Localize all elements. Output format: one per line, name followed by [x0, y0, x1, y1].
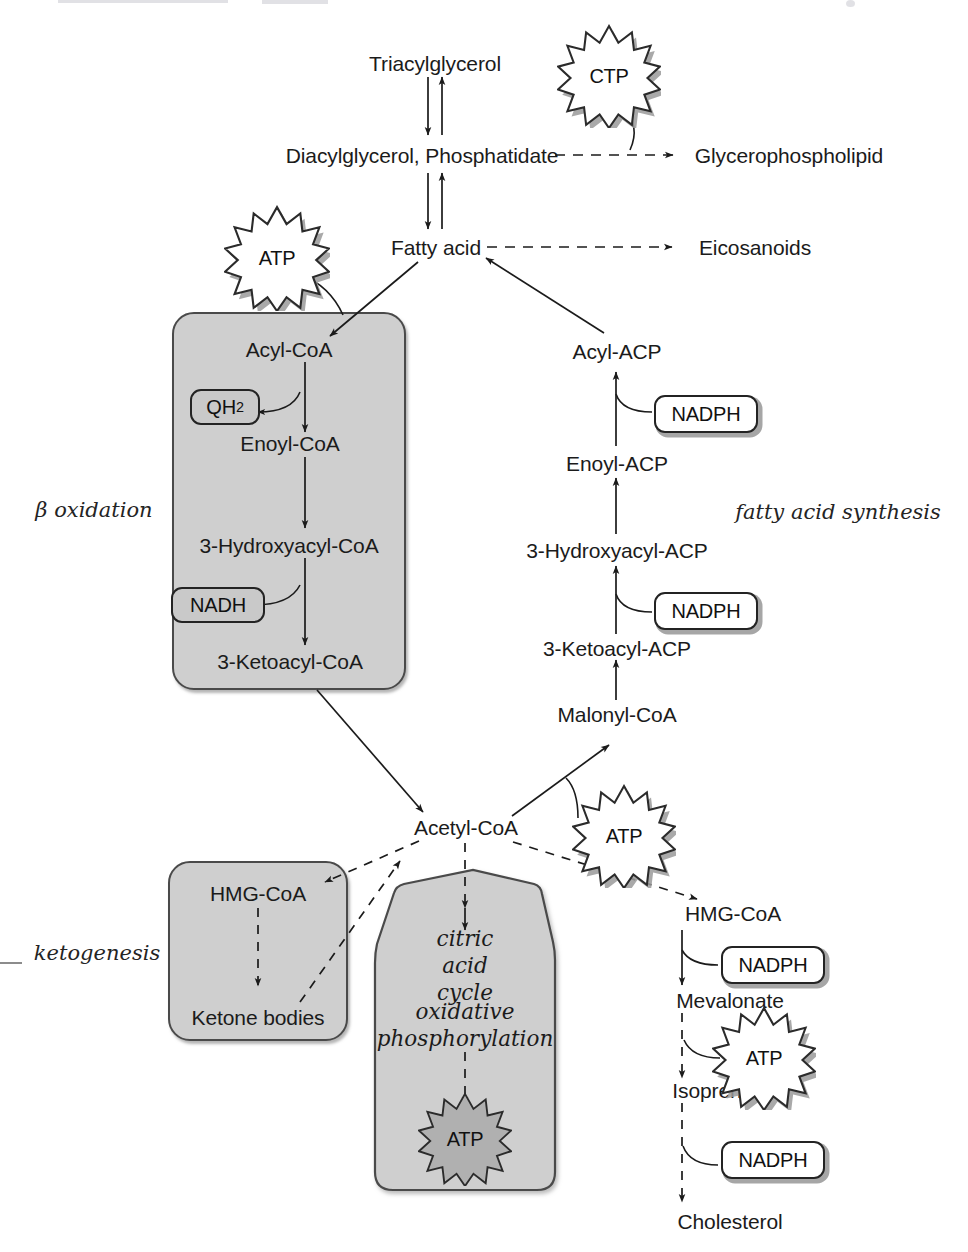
node-glycerophospholipid: Glycerophospholipid — [695, 143, 883, 168]
node-3-ketoacyl-coa: 3-Ketoacyl-CoA — [217, 649, 363, 674]
node-hmg-coa-ketogenesis: HMG-CoA — [210, 881, 306, 906]
caption-citric-line-1: citric — [437, 925, 494, 952]
caption-fatty-acid-synthesis: fatty acid synthesis — [735, 500, 941, 524]
atp-isoprenoid-starburst-icon — [712, 1006, 816, 1110]
atp-mitochondrion-starburst-icon — [418, 1092, 512, 1186]
caption-oxphos-line-1: oxidative — [377, 998, 554, 1025]
badge-qh2-label: QH — [206, 397, 236, 417]
badge-nadph-cholesterol-label: NADPH — [738, 1150, 807, 1170]
node-triacylglycerol: Triacylglycerol — [369, 51, 501, 76]
burst-atp-mitochondrion: ATP — [418, 1092, 512, 1186]
badge-nadph-hydroxyacyl-acp-label: NADPH — [671, 601, 740, 621]
ctp-starburst-icon — [557, 24, 661, 128]
badge-nadph-mevalonate: NADPH — [721, 946, 825, 984]
arrow-layer: Glycerophospholipid (dashed) ===== --> E… — [0, 0, 968, 1252]
badge-nadph-acyl-acp: NADPH — [654, 395, 758, 433]
burst-atp-activation: ATP — [224, 205, 330, 311]
badge-nadph-hydroxyacyl-acp: NADPH — [654, 592, 758, 630]
node-malonyl-coa: Malonyl-CoA — [557, 702, 676, 727]
badge-nadh-label: NADH — [190, 595, 246, 615]
burst-atp-malonyl: ATP — [572, 784, 676, 888]
node-cholesterol: Cholesterol — [677, 1209, 782, 1234]
caption-citric-line-2: acid — [437, 952, 494, 979]
badge-nadh: NADH — [171, 587, 265, 623]
badge-qh2-subscript: 2 — [236, 400, 244, 414]
node-eicosanoids: Eicosanoids — [699, 235, 811, 260]
atp-activation-starburst-icon — [224, 205, 330, 311]
node-acetyl-coa: Acetyl-CoA — [414, 815, 518, 840]
node-3-hydroxyacyl-acp: 3-Hydroxyacyl-ACP — [526, 538, 708, 563]
node-fatty-acid: Fatty acid — [391, 235, 481, 260]
badge-nadph-cholesterol: NADPH — [721, 1141, 825, 1179]
burst-atp-isoprenoid: ATP — [712, 1006, 816, 1110]
node-acyl-acp: Acyl-ACP — [572, 339, 661, 364]
node-diacylglycerol-phosphatidate: Diacylglycerol, Phosphatidate — [286, 143, 559, 168]
caption-oxphos-line-2: phosphorylation — [377, 1025, 554, 1052]
caption-citric-acid-cycle: citric acid cycle — [437, 925, 494, 1006]
badge-nadph-mevalonate-label: NADPH — [738, 955, 807, 975]
atp-malonyl-starburst-icon — [572, 784, 676, 888]
node-enoyl-coa: Enoyl-CoA — [240, 431, 339, 456]
badge-nadph-acyl-acp-label: NADPH — [671, 404, 740, 424]
badge-qh2: QH2 — [190, 389, 260, 425]
pathway-diagram-page: Glycerophospholipid (dashed) ===== --> E… — [0, 0, 968, 1252]
node-hmg-coa-cholesterol: HMG-CoA — [685, 901, 781, 926]
caption-ketogenesis: ketogenesis — [34, 941, 160, 965]
node-3-hydroxyacyl-coa: 3-Hydroxyacyl-CoA — [199, 533, 378, 558]
node-acyl-coa: Acyl-CoA — [246, 337, 333, 362]
burst-ctp: CTP — [557, 24, 661, 128]
node-ketone-bodies: Ketone bodies — [192, 1005, 325, 1030]
node-3-ketoacyl-acp: 3-Ketoacyl-ACP — [543, 636, 691, 661]
caption-oxidative-phosphorylation: oxidative phosphorylation — [377, 998, 554, 1052]
caption-beta-oxidation: β oxidation — [35, 498, 152, 522]
node-enoyl-acp: Enoyl-ACP — [566, 451, 668, 476]
